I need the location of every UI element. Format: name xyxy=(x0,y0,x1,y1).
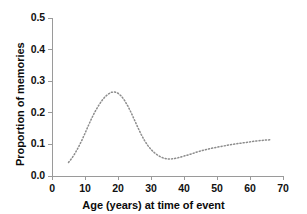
x-tick-label: 0 xyxy=(40,182,64,194)
x-tick-label: 30 xyxy=(139,182,163,194)
x-tick-label: 10 xyxy=(73,182,97,194)
x-tick-label: 60 xyxy=(238,182,262,194)
y-axis-label: Proportion of memories xyxy=(14,42,26,166)
x-tick-label: 70 xyxy=(271,182,295,194)
y-tick-label: 0.5 xyxy=(19,11,45,23)
x-tick-label: 50 xyxy=(205,182,229,194)
chart-axes xyxy=(48,18,283,180)
x-tick-label: 20 xyxy=(106,182,130,194)
chart-series xyxy=(69,92,272,162)
chart-figure: 0.00.10.20.30.40.5 010203040506070 Propo… xyxy=(0,0,307,214)
series-line-proportion-of-memories xyxy=(69,92,272,162)
x-axis-label: Age (years) at time of event xyxy=(0,199,307,211)
x-tick-label: 40 xyxy=(172,182,196,194)
y-tick-label: 0.0 xyxy=(19,169,45,181)
